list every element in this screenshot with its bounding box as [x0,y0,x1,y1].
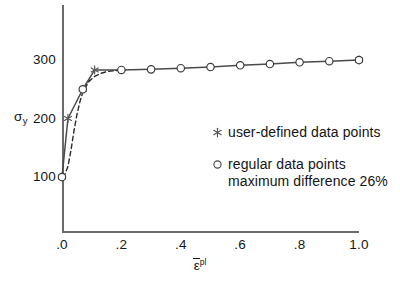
figure-caption [0,276,400,289]
chart-figure: 300 200 100 σy .0 .2 .4 .6 .8 1.0 εpl [0,0,400,289]
data-point-circle [355,56,362,63]
legend-label-user-defined: user-defined data points [228,124,381,142]
legend-label-line1: regular data points [228,156,346,172]
legend-label-line2: maximum difference 26% [228,173,388,191]
asterisk-marker-icon [206,124,228,138]
series-path [62,70,121,177]
data-point-circle [177,64,184,71]
data-point-circle [207,63,214,70]
data-point-circle [58,173,65,180]
legend: user-defined data points regular data po… [206,124,396,205]
data-point-circle [326,57,333,64]
data-point-circle [147,66,154,73]
legend-label-line1: user-defined data points [228,124,381,140]
data-point-circle [296,59,303,66]
legend-item-user-defined: user-defined data points [206,124,396,142]
circle-marker-icon [206,156,228,170]
data-point-circle [266,60,273,67]
data-point-circle [237,62,244,69]
data-point-circle [79,86,86,93]
data-point-circle [118,66,125,73]
data-point-asterisk [64,115,71,123]
legend-label-regular: regular data pointsmaximum difference 26… [228,156,388,191]
legend-item-regular: regular data pointsmaximum difference 26… [206,156,396,191]
